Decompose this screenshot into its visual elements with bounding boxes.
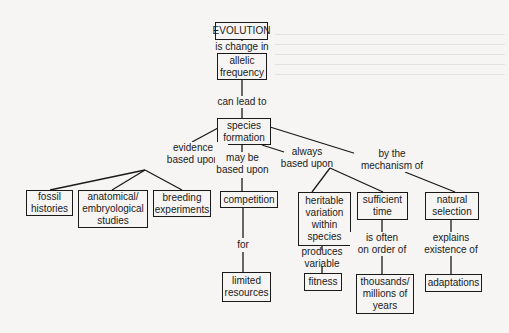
node-sufficient-time: sufficient time [357, 192, 408, 220]
node-breeding-experiments: breeding experiments [153, 190, 211, 217]
node-species-formation: species formation [217, 118, 271, 145]
link-for: for [230, 239, 256, 251]
node-anatomical-studies: anatomical/ embryological studies [78, 190, 148, 228]
link-by-the-mechanism-of: by the mechanism of [354, 148, 430, 172]
link-is-change-in: is change in [212, 41, 272, 53]
node-evolution: EVOLUTION [215, 22, 268, 40]
link-is-often-on-order-of: is often on order of [350, 232, 414, 256]
node-natural-selection: natural selection [425, 192, 479, 220]
node-limited-resources: limited resources [222, 272, 271, 302]
node-competition: competition [220, 191, 278, 208]
node-adaptations: adaptations [425, 274, 482, 292]
link-may-be-based-upon: may be based upon [215, 152, 270, 176]
node-thousands-millions-years: thousands/ millions of years [356, 274, 414, 314]
node-heritable-variation: heritable variation within species [298, 192, 351, 246]
link-can-lead-to: can lead to [212, 96, 272, 108]
node-fossil-histories: fossil histories [26, 190, 73, 216]
node-allelic-frequency: allelic frequency [217, 53, 267, 80]
node-fitness: fitness [304, 273, 342, 291]
link-produces-variable: produces variable [296, 246, 348, 270]
link-explains-existence-of: explains existence of [418, 232, 484, 256]
link-always-based-upon: always based upon [276, 146, 338, 170]
